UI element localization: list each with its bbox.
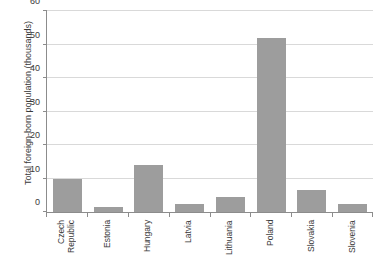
x-tick-mark bbox=[46, 213, 47, 217]
x-axis-slot: Latvia bbox=[169, 213, 210, 277]
bar bbox=[134, 165, 163, 212]
x-tick-label: Estonia bbox=[103, 220, 113, 277]
x-axis-slot: Hungary bbox=[128, 213, 169, 277]
bar-series bbox=[47, 11, 373, 212]
x-tick-label: Latvia bbox=[184, 220, 194, 277]
y-tick-label: 30 bbox=[30, 97, 40, 107]
x-axis-slot: Slovakia bbox=[291, 213, 332, 277]
y-tick-label: 0 bbox=[35, 197, 40, 207]
bar-slot bbox=[292, 11, 333, 212]
x-tick-mark bbox=[128, 213, 129, 217]
bar-slot bbox=[47, 11, 88, 212]
bar bbox=[297, 190, 326, 212]
x-tick-label: Lithuania bbox=[225, 220, 235, 277]
y-tick-label: 20 bbox=[30, 130, 40, 140]
bar-slot bbox=[210, 11, 251, 212]
bar-slot bbox=[129, 11, 170, 212]
x-tick-mark bbox=[291, 213, 292, 217]
x-tick-label: Czech Republic bbox=[57, 220, 76, 277]
bar bbox=[338, 204, 367, 212]
x-axis-slot: Lithuania bbox=[210, 213, 251, 277]
x-tick-label: Hungary bbox=[143, 220, 153, 277]
y-tick-label: 60 bbox=[30, 0, 40, 6]
y-tick-label: 10 bbox=[30, 164, 40, 174]
x-axis-slot: Czech Republic bbox=[46, 213, 87, 277]
x-tick-label: Slovenia bbox=[348, 220, 358, 277]
bar-slot bbox=[332, 11, 373, 212]
x-axis-slot: Slovenia bbox=[332, 213, 373, 277]
bar-slot bbox=[251, 11, 292, 212]
x-tick-label: Poland bbox=[266, 220, 276, 277]
bar bbox=[216, 197, 245, 212]
y-tick-label: 50 bbox=[30, 30, 40, 40]
x-tick-label: Slovakia bbox=[307, 220, 317, 277]
bar bbox=[175, 204, 204, 212]
bar bbox=[94, 207, 123, 212]
x-axis-slot: Poland bbox=[250, 213, 291, 277]
bar-chart: Total foreign-born population (thousands… bbox=[0, 0, 381, 277]
bar-slot bbox=[88, 11, 129, 212]
y-tick-label: 40 bbox=[30, 63, 40, 73]
x-tick-mark bbox=[87, 213, 88, 217]
bar bbox=[53, 179, 82, 212]
plot-area: 0102030405060 bbox=[46, 11, 373, 213]
x-tick-mark bbox=[210, 213, 211, 217]
x-axis-labels: Czech RepublicEstoniaHungaryLatviaLithua… bbox=[46, 213, 373, 277]
x-tick-mark bbox=[250, 213, 251, 217]
x-tick-mark bbox=[332, 213, 333, 217]
x-axis-slot: Estonia bbox=[87, 213, 128, 277]
bar-slot bbox=[169, 11, 210, 212]
x-tick-mark bbox=[372, 213, 373, 217]
bar bbox=[257, 38, 286, 212]
x-tick-mark bbox=[169, 213, 170, 217]
